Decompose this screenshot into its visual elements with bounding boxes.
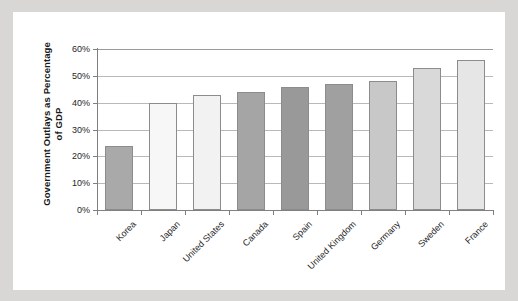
bar-slot	[449, 49, 493, 210]
bar-france	[457, 60, 485, 210]
bar-united-kingdom	[325, 84, 353, 210]
x-tick-label: Spain	[291, 219, 314, 242]
bar-slot	[185, 49, 229, 210]
y-tick-label: 10%	[72, 178, 90, 188]
x-tick-label: Canada	[241, 219, 270, 248]
bar-spain	[281, 87, 309, 210]
x-tick-label: Korea	[114, 219, 138, 243]
y-tick-label: 40%	[72, 98, 90, 108]
bar-slot	[141, 49, 185, 210]
y-tick-label: 60%	[72, 44, 90, 54]
y-tick-label: 30%	[72, 125, 90, 135]
bar-sweden	[413, 68, 441, 210]
bar-slot	[405, 49, 449, 210]
bar-slot	[97, 49, 141, 210]
bar-slot	[273, 49, 317, 210]
x-tick-label: Germany	[369, 219, 402, 252]
x-tick-label: Japan	[158, 219, 182, 243]
y-tick-label: 50%	[72, 71, 90, 81]
chart-panel: Government Outlays as Percentage of GDP …	[13, 12, 505, 290]
bar-korea	[105, 146, 133, 210]
y-axis-title: Government Outlays as Percentage of GDP	[35, 40, 71, 208]
x-axis-line	[97, 210, 494, 211]
plot-area: 0%10%20%30%40%50%60% KoreaJapanUnited St…	[97, 49, 493, 210]
x-tick-label: United States	[181, 219, 226, 264]
bar-slot	[317, 49, 361, 210]
x-tick-label: United Kingdom	[306, 219, 358, 271]
x-tick-label: Sweden	[416, 219, 446, 249]
x-tick-mark	[97, 210, 98, 215]
y-tick-label: 20%	[72, 151, 90, 161]
y-tick-label: 0%	[77, 205, 90, 215]
bar-united-states	[193, 95, 221, 210]
x-tick-label: France	[463, 219, 490, 246]
bar-japan	[149, 103, 177, 210]
